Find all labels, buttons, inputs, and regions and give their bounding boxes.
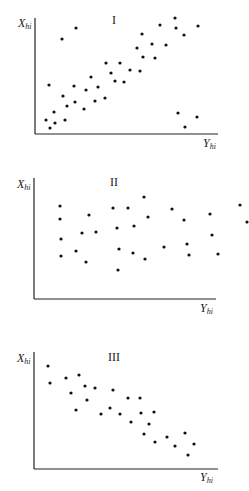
data-point bbox=[128, 68, 131, 71]
y-axis-label: Xhi bbox=[17, 16, 32, 31]
data-point bbox=[174, 26, 177, 29]
data-point bbox=[63, 118, 66, 121]
data-point bbox=[93, 99, 96, 102]
data-point bbox=[111, 388, 114, 391]
data-point bbox=[129, 420, 132, 423]
data-point bbox=[85, 398, 88, 401]
data-point bbox=[72, 84, 75, 87]
data-point bbox=[126, 206, 129, 209]
data-point bbox=[94, 230, 97, 233]
data-points bbox=[58, 195, 248, 271]
data-point bbox=[109, 71, 112, 74]
data-point bbox=[147, 422, 150, 425]
data-point bbox=[53, 121, 56, 124]
data-point bbox=[208, 212, 211, 215]
data-point bbox=[80, 231, 83, 234]
panel-title: III bbox=[108, 350, 120, 364]
data-point bbox=[111, 206, 114, 209]
data-point bbox=[65, 104, 68, 107]
data-point bbox=[58, 204, 61, 207]
data-point bbox=[116, 268, 119, 271]
panel-1: I Xhi Yhi bbox=[17, 13, 218, 151]
data-point bbox=[146, 215, 149, 218]
data-point bbox=[48, 381, 51, 384]
data-point bbox=[82, 107, 85, 110]
data-point bbox=[74, 249, 77, 252]
data-point bbox=[108, 406, 111, 409]
data-point bbox=[138, 69, 141, 72]
y-axis-label: Xhi bbox=[16, 177, 31, 192]
data-point bbox=[165, 435, 168, 438]
data-point bbox=[89, 75, 92, 78]
data-point bbox=[83, 384, 86, 387]
data-point bbox=[245, 220, 248, 223]
data-point bbox=[182, 33, 185, 36]
data-point bbox=[143, 257, 146, 260]
data-point bbox=[118, 61, 121, 64]
data-point bbox=[135, 46, 138, 49]
panel-3: III Xhi Yhi bbox=[16, 350, 218, 485]
data-point bbox=[73, 100, 76, 103]
data-point bbox=[47, 83, 50, 86]
data-point bbox=[60, 37, 63, 40]
data-point bbox=[99, 412, 102, 415]
data-point bbox=[187, 253, 190, 256]
data-point bbox=[103, 96, 106, 99]
data-point bbox=[122, 80, 125, 83]
data-point bbox=[115, 226, 118, 229]
data-point bbox=[141, 55, 144, 58]
x-axis-label: Yhi bbox=[200, 301, 213, 316]
data-point bbox=[238, 203, 241, 206]
data-point bbox=[142, 195, 145, 198]
data-point bbox=[74, 26, 77, 29]
data-point bbox=[170, 207, 173, 210]
data-point bbox=[142, 432, 145, 435]
data-point bbox=[59, 237, 62, 240]
data-point bbox=[183, 431, 186, 434]
data-point bbox=[173, 16, 176, 19]
data-point bbox=[44, 118, 47, 121]
x-axis-label: Yhi bbox=[200, 470, 213, 485]
data-point bbox=[186, 453, 189, 456]
data-point bbox=[93, 386, 96, 389]
data-point bbox=[195, 115, 198, 118]
data-point bbox=[69, 391, 72, 394]
data-point bbox=[126, 396, 129, 399]
data-point bbox=[196, 24, 199, 27]
data-point bbox=[150, 42, 153, 45]
data-point bbox=[46, 364, 49, 367]
panel-title: II bbox=[110, 175, 118, 189]
y-axis-label: Xhi bbox=[16, 351, 31, 366]
data-point bbox=[64, 376, 67, 379]
data-point bbox=[152, 410, 155, 413]
data-point bbox=[118, 412, 121, 415]
data-point bbox=[153, 440, 156, 443]
data-point bbox=[84, 88, 87, 91]
data-point bbox=[185, 242, 188, 245]
data-point bbox=[162, 245, 165, 248]
data-point bbox=[74, 408, 77, 411]
data-point bbox=[77, 373, 80, 376]
panel-title: I bbox=[112, 13, 116, 27]
data-point bbox=[158, 23, 161, 26]
data-point bbox=[140, 32, 143, 35]
data-point bbox=[96, 85, 99, 88]
data-point bbox=[210, 233, 213, 236]
data-point bbox=[138, 396, 141, 399]
data-point bbox=[183, 125, 186, 128]
panel-2: II Xhi Yhi bbox=[16, 175, 249, 316]
x-axis-label: Yhi bbox=[203, 136, 216, 151]
data-point bbox=[117, 247, 120, 250]
data-point bbox=[59, 254, 62, 257]
data-point bbox=[58, 217, 61, 220]
data-point bbox=[113, 79, 116, 82]
data-point bbox=[61, 94, 64, 97]
data-point bbox=[84, 260, 87, 263]
data-point bbox=[87, 213, 90, 216]
data-points bbox=[44, 16, 199, 129]
data-point bbox=[164, 43, 167, 46]
scatter-figure: I Xhi Yhi II Xhi Yhi III Xhi Yhi bbox=[0, 0, 249, 491]
data-point bbox=[153, 56, 156, 59]
data-point bbox=[192, 442, 195, 445]
data-point bbox=[182, 218, 185, 221]
